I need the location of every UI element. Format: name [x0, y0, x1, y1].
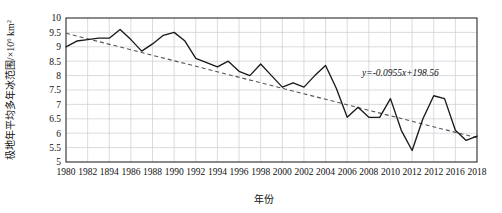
- y-axis-title-main: 极地年平均多年冰范围/×10: [4, 42, 16, 160]
- y-tick-label: 6: [56, 129, 61, 139]
- x-tick-label: 2000: [273, 167, 292, 177]
- x-tick-label: 1982: [78, 167, 97, 177]
- x-tick-label: 2016: [446, 167, 465, 177]
- x-tick-label: 1998: [251, 167, 270, 177]
- x-tick-label: 2010: [381, 167, 400, 177]
- x-tick-label: 2004: [316, 167, 335, 177]
- y-tick-label: 7: [56, 100, 61, 110]
- y-tick-label: 5.5: [49, 143, 61, 153]
- x-tick-label: 1988: [143, 167, 162, 177]
- x-axis-title: 年份: [254, 193, 274, 205]
- y-tick-label: 8: [56, 71, 61, 81]
- x-tick-label: 2012: [403, 167, 422, 177]
- x-tick-label: 1980: [57, 167, 76, 177]
- x-tick-label: 1994: [208, 167, 227, 177]
- x-tick-label: 2018: [468, 167, 487, 177]
- y-tick-label: 6.5: [49, 114, 61, 124]
- chart-container: 109.598.587.576.565.55 19801982189419861…: [0, 0, 502, 213]
- y-axis-title-unit: km: [5, 23, 16, 39]
- x-tick-label: 2006: [338, 167, 357, 177]
- y-tick-label: 9: [56, 42, 61, 52]
- sea-ice-extent-line-chart: 109.598.587.576.565.55 19801982189419861…: [0, 0, 502, 213]
- y-axis-title: 极地年平均多年冰范围/×106 km2: [4, 20, 16, 160]
- x-tick-label: 1894: [100, 167, 119, 177]
- x-tick-label: 2002: [294, 167, 313, 177]
- y-tick-label: 9.5: [49, 28, 61, 38]
- x-tick-label: 1996: [230, 167, 249, 177]
- x-tick-label: 1986: [121, 167, 140, 177]
- x-tick-label: 1990: [165, 167, 184, 177]
- y-tick-label: 8.5: [49, 57, 61, 67]
- y-tick-label: 10: [52, 13, 62, 23]
- y-axis-tick-labels: 109.598.587.576.565.55: [49, 13, 61, 167]
- y-tick-label: 7.5: [49, 85, 61, 95]
- x-tick-label: 1992: [186, 167, 205, 177]
- x-tick-label: 2012: [424, 167, 443, 177]
- svg-text:极地年平均多年冰范围/×106 km2: 极地年平均多年冰范围/×106 km2: [4, 20, 16, 160]
- y-axis-title-unit-exponent: 2: [5, 20, 12, 23]
- trendline-equation-label: y=-0.0955x+198.56: [361, 68, 439, 78]
- x-tick-label: 2008: [359, 167, 378, 177]
- x-axis-tick-labels: 1980198218941986198819901992199419961998…: [57, 167, 487, 177]
- y-tick-label: 5: [56, 157, 61, 167]
